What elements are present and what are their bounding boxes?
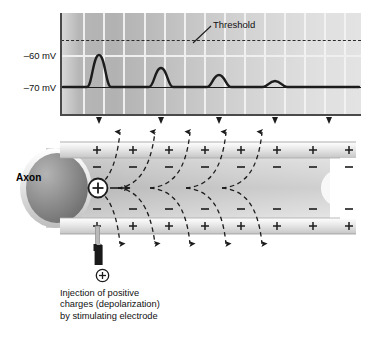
y-axis (60, 13, 62, 116)
stimulus-marker (158, 117, 164, 124)
axon-bulb (20, 148, 92, 228)
stimulus-marker (216, 117, 222, 124)
threshold-label: Threshold (213, 19, 255, 30)
y-tick-label-minus-70: –70 mV (8, 82, 56, 93)
y-tick-label-minus-60: –60 mV (8, 50, 56, 61)
caption-line: charges (depolarization) (60, 299, 270, 310)
figure-caption: Injection of positive charges (depolariz… (60, 288, 270, 322)
membrane-potential-chart: Threshold (61, 13, 361, 116)
caption-line: by stimulating electrode (60, 311, 270, 322)
axon-diagram (0, 126, 373, 251)
stimulus-marker (272, 117, 278, 124)
stimulus-marker (326, 117, 332, 124)
plus-circle-icon (95, 268, 110, 283)
caption-line: Injection of positive (60, 288, 270, 299)
electrode-tip (93, 243, 105, 271)
stimulus-marker (96, 117, 102, 124)
axon-label: Axon (16, 172, 41, 183)
